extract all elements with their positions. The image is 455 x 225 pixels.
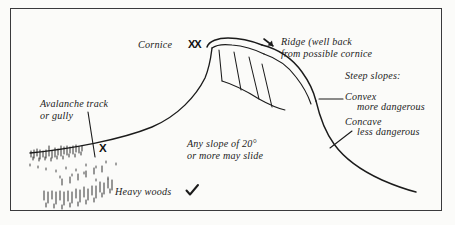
concave-note-label: less dangerous [357,126,420,138]
avalanche-track-danger-x-mark: X [99,142,107,154]
heavy-woods-label: Heavy woods [115,186,171,198]
convex-note-label: more dangerous [357,101,425,113]
ridge-label-line2: from possible cornice [281,48,372,59]
ridge-label: Ridge (well back from possible cornice [281,36,372,60]
ridge-label-line1: Ridge (well back [281,36,352,47]
ridge-hatch-1 [219,50,222,81]
steep-slopes-label: Steep slopes: [345,70,401,82]
cornice-underside [212,45,264,54]
avalanche-track-line2: or gully [40,110,73,121]
right-slope-line [316,101,416,192]
ridge-down-right-arrow-icon [262,36,278,50]
ridge-hatch-base [222,81,285,110]
ridge-hatch-4 [262,64,272,107]
ridge-hatch-3 [249,57,259,99]
avalanche-track-line1: Avalanche track [40,98,108,109]
slope-angle-label: Any slope of 20° or more may slide [187,138,263,162]
heavy-woods-check-icon [185,183,200,197]
avalanche-track-label: Avalanche track or gully [40,98,108,122]
tree-cluster-lower [44,166,112,209]
figure-canvas: Cornice XX Ridge (well back from possibl… [0,0,455,225]
slope-angle-line1: Any slope of 20° [187,138,257,149]
slope-angle-line2: or more may slide [187,150,263,161]
ridge-lower-line [264,54,311,104]
concave-leader [330,131,352,148]
cornice-label: Cornice [138,39,172,51]
cornice-danger-x-marks: XX [188,38,201,50]
ridge-hatch-2 [234,52,241,90]
tree-stipple-scatter [30,161,116,181]
